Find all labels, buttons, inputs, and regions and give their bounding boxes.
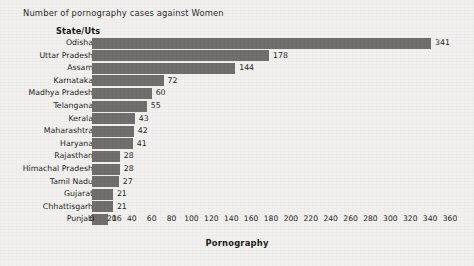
bar-row: Rajasthan28: [0, 150, 474, 163]
x-tick-label: 220: [304, 214, 319, 223]
bar-value-label: 27: [123, 177, 133, 187]
bar-value-label: 60: [156, 88, 166, 98]
bar-row: Assam144: [0, 62, 474, 75]
chart-title: Number of pornography cases against Wome…: [23, 8, 224, 18]
category-label: Assam: [67, 63, 93, 73]
category-label: Himachal Pradesh: [23, 164, 93, 174]
bar-row: Maharashtra42: [0, 125, 474, 138]
bar-fill: [92, 38, 431, 49]
x-tick-label: 340: [423, 214, 438, 223]
x-tick-label: 280: [363, 214, 378, 223]
bar-fill: [92, 151, 120, 162]
x-tick-label: 120: [204, 214, 219, 223]
bar-fill: [92, 88, 152, 99]
x-tick-label: 320: [403, 214, 418, 223]
bar-row: Telangana55: [0, 100, 474, 113]
x-tick-label: 360: [443, 214, 458, 223]
category-label: Telangana: [53, 101, 93, 111]
bar: [92, 189, 113, 200]
bar-fill: [92, 50, 269, 61]
x-tick-label: 260: [343, 214, 358, 223]
bar-row: Tamil Nadu27: [0, 176, 474, 189]
bar-fill: [92, 201, 113, 212]
bar-row: Uttar Pradesh178: [0, 50, 474, 63]
x-tick-label: 300: [383, 214, 398, 223]
bar: [92, 75, 164, 86]
bar: [92, 38, 431, 49]
category-label: Uttar Pradesh: [39, 51, 93, 61]
x-tick-label: 240: [323, 214, 338, 223]
bar-fill: [92, 63, 235, 74]
x-tick-label: 140: [224, 214, 239, 223]
bar-value-label: 28: [124, 151, 134, 161]
bar-fill: [92, 164, 120, 175]
bar: [92, 138, 133, 149]
bar-value-label: 42: [138, 126, 148, 136]
bar-row: Chhattisgarh21: [0, 201, 474, 214]
x-tick-label: 180: [264, 214, 279, 223]
category-label: Kerala: [69, 114, 93, 124]
bar-value-label: 144: [239, 63, 254, 73]
bar-row: Kerala43: [0, 113, 474, 126]
bar-fill: [92, 101, 147, 112]
bar: [92, 176, 119, 187]
plot-area: Odisha341Uttar Pradesh178Assam144Karnata…: [0, 37, 474, 209]
x-tick-label: 160: [244, 214, 259, 223]
bar-row: Himachal Pradesh28: [0, 163, 474, 176]
bar-value-label: 178: [273, 51, 288, 61]
category-label: Madhya Pradesh: [28, 88, 93, 98]
category-label: Haryana: [60, 139, 93, 149]
bar: [92, 88, 152, 99]
bar-chart-figure: Number of pornography cases against Wome…: [0, 0, 474, 266]
bar-row: Odisha341: [0, 37, 474, 50]
bar-fill: [92, 113, 135, 124]
x-tick-label: 20: [107, 214, 117, 223]
category-label: Gujarat: [64, 189, 93, 199]
bar: [92, 101, 147, 112]
bar-value-label: 21: [117, 202, 127, 212]
bar-fill: [92, 189, 113, 200]
bar-value-label: 43: [139, 114, 149, 124]
x-tick-label: 200: [284, 214, 299, 223]
category-axis-header: State/Uts: [56, 26, 100, 36]
bar-row: Gujarat21: [0, 188, 474, 201]
bar-value-label: 55: [151, 101, 161, 111]
bar-row: Karnataka72: [0, 75, 474, 88]
bar: [92, 126, 134, 137]
bar-value-label: 341: [435, 38, 450, 48]
category-label: Rajasthan: [54, 151, 93, 161]
category-label: Maharashtra: [44, 126, 93, 136]
bar: [92, 113, 135, 124]
x-axis-title: Pornography: [0, 238, 474, 248]
bar: [92, 63, 235, 74]
bar-row: Haryana41: [0, 138, 474, 151]
category-label: Karnataka: [53, 76, 93, 86]
bar: [92, 201, 113, 212]
x-tick-label: 40: [127, 214, 137, 223]
bar: [92, 164, 120, 175]
bar: [92, 151, 120, 162]
bar-value-label: 28: [124, 164, 134, 174]
x-axis-ticks: 0204060801001201401601802002202402602803…: [0, 214, 474, 228]
category-label: Tamil Nadu: [50, 177, 93, 187]
bar-fill: [92, 126, 134, 137]
bar-value-label: 72: [168, 76, 178, 86]
category-label: Chhattisgarh: [43, 202, 93, 212]
x-tick-label: 80: [167, 214, 177, 223]
category-label: Odisha: [66, 38, 93, 48]
x-tick-label: 60: [147, 214, 157, 223]
x-tick-label: 100: [184, 214, 199, 223]
bar: [92, 50, 269, 61]
bar-fill: [92, 75, 164, 86]
x-tick-label: 0: [90, 214, 95, 223]
bar-fill: [92, 176, 119, 187]
bar-value-label: 21: [117, 189, 127, 199]
bar-fill: [92, 138, 133, 149]
bar-row: Madhya Pradesh60: [0, 87, 474, 100]
bar-value-label: 41: [137, 139, 147, 149]
